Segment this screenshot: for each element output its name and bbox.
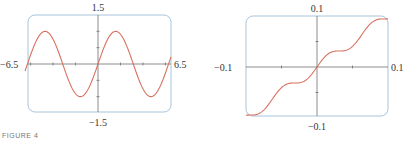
x-min-label: −0.1 xyxy=(214,62,232,73)
plot-sine: 1.5 −1.5 −6.5 6.5 xyxy=(0,2,187,128)
y-max-label: 1.5 xyxy=(92,2,105,13)
plot-frame xyxy=(28,15,171,112)
figure-caption: FIGURE 4 xyxy=(2,132,38,139)
plot-staircase: 0.1 −0.1 −0.1 0.1 xyxy=(214,3,404,132)
x-max-label: 0.1 xyxy=(391,62,404,73)
y-max-label: 0.1 xyxy=(311,3,324,14)
x-min-label: −6.5 xyxy=(0,59,18,70)
figure: 1.5 −1.5 −6.5 6.5 0.1 −0.1 −0.1 0.1 xyxy=(0,0,405,141)
y-min-label: −1.5 xyxy=(89,117,107,128)
x-max-label: 6.5 xyxy=(174,59,187,70)
y-min-label: −0.1 xyxy=(308,121,326,132)
